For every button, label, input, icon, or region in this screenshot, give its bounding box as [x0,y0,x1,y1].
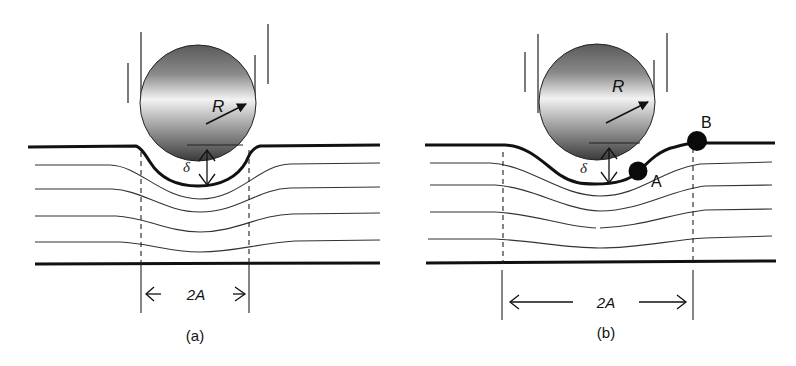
point-a-label: A [651,173,662,190]
radius-label-b: R [612,77,624,96]
indentation-diagram: R δ 2A (a) [0,0,796,366]
width-label-b: 2A [596,294,615,311]
panel-caption-b: (b) [597,324,615,341]
sphere-indenter-a [140,45,256,161]
substrate-layers-b [428,162,772,248]
panel-b: R δ A B 2A (b) [425,33,776,341]
radius-label-a: R [212,97,224,116]
depth-label-a: δ [183,159,191,175]
point-a-marker [629,162,648,181]
substrate-base-a [35,263,380,264]
panel-caption-a: (a) [186,327,204,344]
depth-label-b: δ [580,160,588,176]
point-b-label: B [701,114,712,131]
panel-a: R δ 2A (a) [28,24,380,344]
contact-dashed-lines-b [503,148,693,264]
substrate-base-b [426,261,776,263]
point-b-marker [687,131,707,151]
width-label-a: 2A [186,286,205,303]
